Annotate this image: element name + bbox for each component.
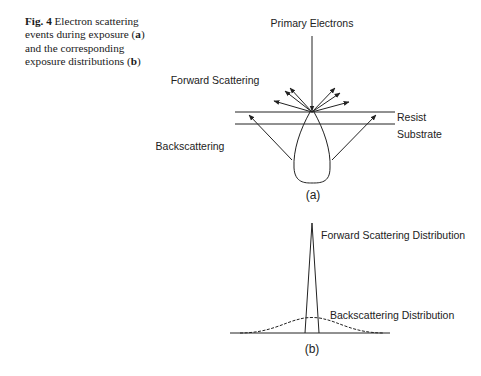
figure-svg: Primary Electrons Forward Scattering Res… — [0, 0, 481, 376]
backscattering-label: Backscattering — [156, 140, 225, 152]
forward-scattering-distribution-curve — [305, 223, 319, 333]
forward-scatter-arrow — [312, 102, 349, 112]
forward-scatter-arrow — [285, 91, 312, 112]
interaction-volume — [294, 112, 330, 183]
panel-b-label: (b) — [305, 342, 320, 356]
backscatter-arrow — [332, 115, 376, 160]
backscatter-arrow — [249, 115, 292, 160]
primary-electrons-label: Primary Electrons — [271, 17, 354, 29]
panel-b: Forward Scattering Distribution Backscat… — [230, 223, 465, 356]
forward-scattering-label: Forward Scattering — [171, 74, 260, 86]
panel-a-label: (a) — [306, 188, 321, 202]
resist-label: Resist — [397, 111, 426, 123]
forward-distribution-label: Forward Scattering Distribution — [321, 229, 465, 241]
forward-scatter-arrow — [312, 93, 340, 112]
substrate-label: Substrate — [397, 128, 442, 140]
backscattering-distribution-label: Backscattering Distribution — [330, 309, 454, 321]
panel-a: Primary Electrons Forward Scattering Res… — [156, 17, 443, 202]
